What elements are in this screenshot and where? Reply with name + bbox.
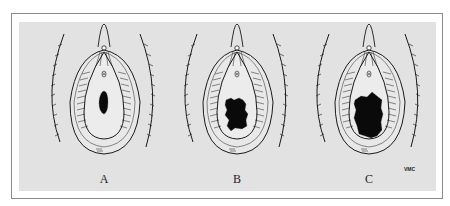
figure-frame: A B C VMC — [11, 13, 443, 199]
panel-label-c: C — [359, 172, 379, 187]
artist-signature: VMC — [404, 166, 415, 172]
lesion-b — [225, 98, 248, 131]
anatomical-illustrations — [19, 22, 436, 191]
figure-a — [51, 24, 155, 154]
panel-label-a: A — [94, 172, 114, 187]
illustration-panel: A B C VMC — [19, 22, 436, 191]
panel-label-b: B — [227, 172, 247, 187]
figure-b — [184, 24, 288, 154]
figure-c — [316, 24, 420, 154]
lesion-c — [354, 92, 383, 138]
